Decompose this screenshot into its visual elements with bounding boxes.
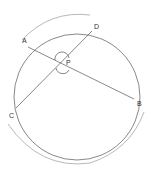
label-P: P <box>66 59 71 66</box>
circle-chords-diagram: A D C B P <box>0 0 151 169</box>
label-C: C <box>9 112 14 119</box>
label-D: D <box>94 23 99 30</box>
outer-arc-top <box>22 14 90 40</box>
chord-AB <box>28 47 134 99</box>
main-circle <box>14 34 140 160</box>
outer-arc-bottom <box>8 112 144 164</box>
label-B: B <box>137 100 142 107</box>
label-A: A <box>22 37 27 44</box>
chord-CD <box>16 31 92 108</box>
angle-mark-lower <box>56 68 69 74</box>
